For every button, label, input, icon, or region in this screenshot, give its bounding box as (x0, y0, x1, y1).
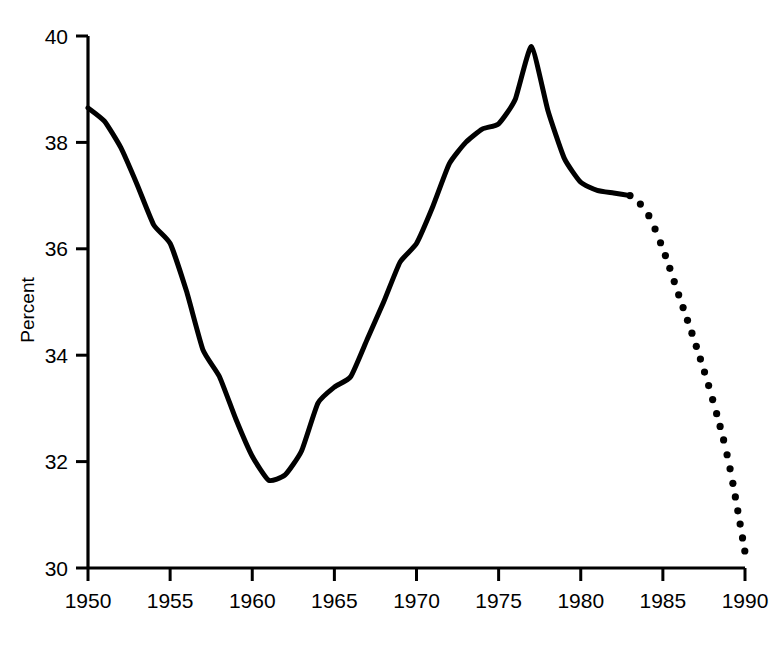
x-axis-tick-labels: 195019551960196519701975198019851990 (65, 589, 769, 612)
x-tick-label: 1985 (640, 589, 687, 612)
y-tick-label: 40 (45, 25, 68, 48)
y-tick-label: 32 (45, 450, 68, 473)
x-tick-label: 1965 (311, 589, 358, 612)
y-axis-ticks (76, 36, 88, 568)
x-axis-ticks (88, 568, 745, 581)
y-tick-label: 30 (45, 557, 68, 580)
x-tick-label: 1990 (722, 589, 769, 612)
y-tick-label: 36 (45, 237, 68, 260)
y-axis-tick-labels: 303234363840 (45, 25, 69, 580)
series-projected (626, 192, 748, 555)
x-tick-label: 1980 (557, 589, 604, 612)
y-tick-label: 34 (45, 344, 69, 367)
y-axis-title: Percent (17, 277, 38, 343)
y-tick-label: 38 (45, 131, 68, 154)
series-historical (88, 47, 630, 481)
x-tick-label: 1960 (229, 589, 276, 612)
chart-container: 303234363840 195019551960196519701975198… (0, 0, 782, 647)
data-series (88, 47, 748, 555)
x-tick-label: 1955 (147, 589, 194, 612)
x-tick-label: 1970 (393, 589, 440, 612)
x-tick-label: 1975 (475, 589, 522, 612)
x-tick-label: 1950 (65, 589, 112, 612)
line-chart: 303234363840 195019551960196519701975198… (0, 0, 782, 647)
